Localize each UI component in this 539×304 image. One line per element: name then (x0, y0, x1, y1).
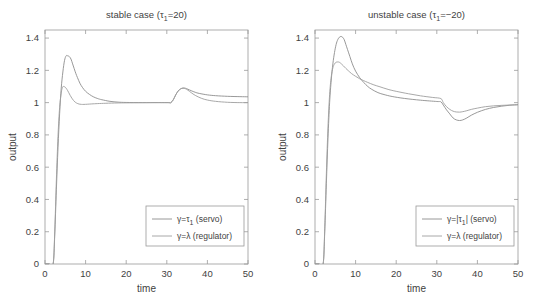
figure-canvas: 0102030405000.20.40.60.811.21.4timeoutpu… (0, 0, 539, 304)
legend-label: γ=λ (regulator) (447, 231, 502, 241)
y-tick-label: 0 (34, 258, 39, 269)
y-tick-label: 0.4 (296, 194, 309, 205)
x-axis-label: time (407, 283, 426, 294)
chart-panel-unstable-case: 0102030405000.20.40.60.811.21.4timeoutpu… (270, 0, 539, 304)
chart-svg: 0102030405000.20.40.60.811.21.4timeoutpu… (0, 0, 269, 304)
x-tick-label: 30 (432, 268, 443, 279)
y-tick-label: 0.4 (26, 194, 39, 205)
y-tick-label: 0 (304, 258, 309, 269)
x-tick-label: 40 (472, 268, 483, 279)
chart-panel-stable-case: 0102030405000.20.40.60.811.21.4timeoutpu… (0, 0, 269, 304)
y-tick-label: 1.2 (296, 65, 309, 76)
x-tick-label: 10 (350, 268, 361, 279)
y-tick-label: 1.2 (26, 65, 39, 76)
chart-svg: 0102030405000.20.40.60.811.21.4timeoutpu… (270, 0, 539, 304)
x-tick-label: 40 (202, 268, 213, 279)
y-tick-label: 0.8 (26, 129, 39, 140)
chart-title: unstable case (τ1=−20) (368, 9, 465, 22)
y-tick-label: 1 (34, 97, 39, 108)
y-axis-label: output (277, 133, 288, 161)
x-tick-label: 20 (121, 268, 132, 279)
y-tick-label: 0.6 (26, 162, 39, 173)
x-tick-label: 10 (80, 268, 91, 279)
y-axis-label: output (7, 133, 18, 161)
y-tick-label: 0.2 (26, 226, 39, 237)
y-tick-label: 1.4 (296, 32, 309, 43)
y-tick-label: 0.6 (296, 162, 309, 173)
x-tick-label: 50 (243, 268, 254, 279)
y-tick-label: 1 (304, 97, 309, 108)
x-tick-label: 30 (162, 268, 173, 279)
x-tick-label: 20 (391, 268, 402, 279)
chart-title: stable case (τ1=20) (106, 9, 187, 22)
y-tick-label: 0.2 (296, 226, 309, 237)
legend-label: γ=τ1 (servo) (177, 214, 222, 226)
x-tick-label: 0 (42, 268, 47, 279)
x-tick-label: 50 (513, 268, 524, 279)
y-tick-label: 1.4 (26, 32, 39, 43)
x-axis-label: time (137, 283, 156, 294)
y-tick-label: 0.8 (296, 129, 309, 140)
x-tick-label: 0 (312, 268, 317, 279)
legend-label: γ=|τ1| (servo) (447, 214, 497, 226)
legend-label: γ=λ (regulator) (177, 231, 232, 241)
